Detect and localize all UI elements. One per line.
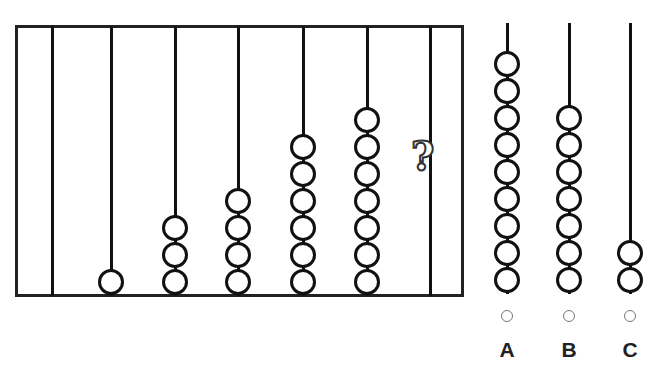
bead	[290, 134, 316, 160]
option-c-radio[interactable]	[624, 310, 636, 322]
option-b-radio[interactable]	[563, 310, 575, 322]
bead	[494, 105, 520, 131]
bead	[354, 107, 380, 133]
question-mark: ?	[411, 132, 434, 179]
option-b-label: B	[554, 338, 584, 362]
bead	[556, 105, 582, 131]
bead	[162, 215, 188, 241]
bead	[225, 242, 251, 268]
bead	[556, 132, 582, 158]
bead	[556, 240, 582, 266]
bead	[617, 240, 643, 266]
option-a-label: A	[492, 338, 522, 362]
bead	[494, 240, 520, 266]
bead	[617, 267, 643, 293]
abacus-1-rod	[110, 26, 113, 296]
bead	[162, 269, 188, 295]
bead	[162, 242, 188, 268]
bead	[98, 269, 124, 295]
bead	[354, 215, 380, 241]
bead	[290, 188, 316, 214]
bead	[556, 159, 582, 185]
bead	[494, 51, 520, 77]
bead	[354, 188, 380, 214]
bead	[290, 242, 316, 268]
option-a-radio[interactable]	[501, 310, 513, 322]
bead	[225, 215, 251, 241]
bead	[290, 161, 316, 187]
bead	[494, 132, 520, 158]
bead	[494, 159, 520, 185]
abacus-0-rod	[51, 26, 54, 296]
bead	[494, 78, 520, 104]
bead	[494, 186, 520, 212]
bead	[290, 269, 316, 295]
bead	[354, 161, 380, 187]
bead	[494, 267, 520, 293]
bead	[354, 269, 380, 295]
bead	[225, 269, 251, 295]
bead	[225, 188, 251, 214]
bead	[556, 267, 582, 293]
bead	[354, 134, 380, 160]
bead	[354, 242, 380, 268]
option-c-label: C	[615, 338, 645, 362]
bead	[494, 213, 520, 239]
bead	[556, 213, 582, 239]
bead	[290, 215, 316, 241]
bead	[556, 186, 582, 212]
